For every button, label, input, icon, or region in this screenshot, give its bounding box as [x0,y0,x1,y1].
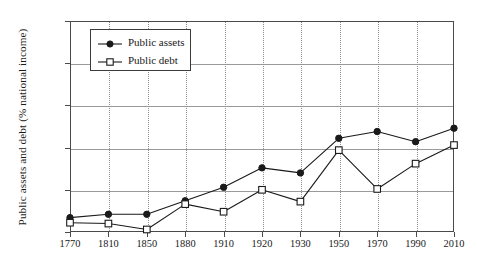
data-point-marker [259,165,265,171]
data-point-marker [412,160,419,167]
data-point-marker [374,128,380,134]
x-tick-mark-1950 [339,232,340,237]
chart-legend: Public assets Public debt [90,29,191,71]
data-point-marker [182,201,189,208]
data-point-marker [451,142,458,149]
x-tick-mark-1990 [416,232,417,237]
legend-label-public-assets: Public assets [128,36,185,48]
y-axis-title: Public assets and debt (% national incom… [14,2,30,252]
data-point-marker [144,211,150,217]
data-point-marker [67,219,74,226]
data-point-marker [105,220,112,227]
data-point-marker [105,211,111,217]
series-public-assets [67,125,457,221]
data-point-marker [336,135,342,141]
data-point-marker [297,198,304,205]
x-tick-mark-1910 [224,232,225,237]
data-point-marker [144,226,151,233]
data-point-marker [374,186,381,193]
data-point-marker [297,170,303,176]
x-tick-mark-1770 [70,232,71,237]
legend-entry-public-assets: Public assets [97,33,185,50]
data-point-marker [336,147,343,154]
x-tick-mark-1970 [377,232,378,237]
data-point-marker [259,187,266,194]
data-point-marker [220,184,226,190]
filled-circle-marker-icon [97,36,123,48]
open-square-marker-icon [97,54,123,66]
x-tick-mark-1930 [300,232,301,237]
chart-container: Public assets and debt (% national incom… [0,0,477,262]
x-tick-mark-2010 [454,232,455,237]
series-line [70,128,454,217]
data-point-marker [451,125,457,131]
series-public-debt [67,142,458,233]
x-tick-mark-1810 [108,232,109,237]
legend-label-public-debt: Public debt [128,54,178,66]
data-point-marker [412,138,418,144]
x-tick-label-2010: 2010 [424,238,477,249]
data-point-marker [220,208,227,215]
legend-entry-public-debt: Public debt [97,51,178,68]
x-tick-mark-1920 [262,232,263,237]
x-tick-mark-1880 [185,232,186,237]
